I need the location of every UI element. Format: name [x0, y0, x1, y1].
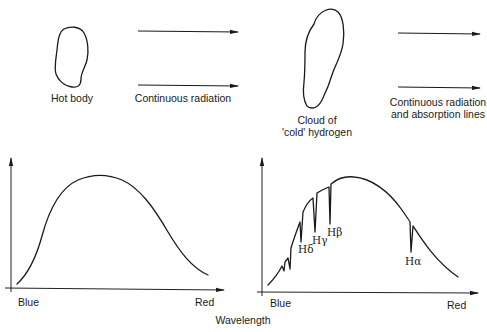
h-alpha-label: Hα: [405, 255, 421, 267]
h-beta-label: Hβ: [327, 226, 342, 238]
left-x-axis: [5, 288, 224, 290]
continuous-radiation-label: Continuous radiation: [128, 92, 238, 104]
absorption-arrow-bottom: [398, 87, 480, 88]
wavelength-axis-label: Wavelength: [208, 314, 278, 326]
left-continuum-curve: [17, 176, 208, 285]
left-spectrum-chart: [5, 158, 224, 292]
right-x-axis: [257, 292, 478, 293]
left-blue-label: Blue: [18, 296, 39, 308]
right-red-label: Red: [447, 299, 466, 311]
hydrogen-cloud-shape: [303, 9, 343, 108]
cloud-label-line2: 'cold' hydrogen: [272, 126, 362, 138]
right-absorption-curve: [268, 177, 458, 285]
hot-body-shape: [55, 27, 88, 87]
absorption-label-line1: Continuous radiation: [383, 96, 487, 108]
left-red-label: Red: [195, 296, 214, 308]
right-blue-label: Blue: [270, 297, 291, 309]
radiation-arrow-bottom: [138, 85, 238, 86]
diagram-canvas: Hδ Hγ Hβ Hα: [0, 0, 487, 332]
h-gamma-label: Hγ: [312, 234, 327, 246]
cloud-label-line1: Cloud of: [282, 114, 352, 126]
right-spectrum-chart: Hδ Hγ Hβ Hα: [257, 158, 478, 296]
hot-body-label: Hot body: [44, 92, 100, 104]
absorption-label-line2: and absorption lines: [383, 108, 487, 120]
radiation-arrow-top: [138, 31, 238, 32]
absorption-arrow-top: [398, 33, 480, 34]
